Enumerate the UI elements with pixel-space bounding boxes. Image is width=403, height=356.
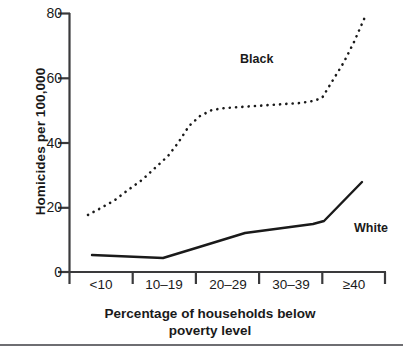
series-label-black: Black	[240, 52, 273, 66]
series-line-white	[92, 182, 362, 258]
x-tick-label-lt10: <10	[90, 278, 113, 292]
series-label-white: White	[354, 221, 388, 235]
chart-figure: Homicides per 100,000 80 60 40 20 0 <10 …	[0, 0, 403, 356]
x-axis-title-line2: poverty level	[30, 323, 390, 340]
x-axis-title: Percentage of households below poverty l…	[30, 306, 390, 340]
x-axis-title-line1: Percentage of households below	[30, 306, 390, 323]
x-axis-tick-labels: <10 10–19 20–29 30–39 ≥40	[0, 278, 403, 300]
x-tick-label-30-39: 30–39	[272, 278, 310, 292]
x-tick-label-20-29: 20–29	[209, 278, 247, 292]
x-tick-label-gte40: ≥40	[343, 278, 365, 292]
y-tick-label-0: 0	[28, 265, 62, 279]
y-tick-label-20: 20	[28, 200, 62, 214]
series-line-black	[88, 17, 365, 215]
y-tick-label-80: 80	[28, 6, 62, 20]
y-axis-tick-labels: 80 60 40 20 0	[20, 0, 62, 356]
x-tick-label-10-19: 10–19	[145, 278, 183, 292]
y-tick-label-60: 60	[28, 71, 62, 85]
y-tick-label-40: 40	[28, 136, 62, 150]
bottom-divider-rule	[0, 344, 403, 346]
